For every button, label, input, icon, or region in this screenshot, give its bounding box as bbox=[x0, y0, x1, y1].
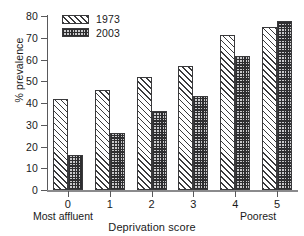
x-tick bbox=[152, 191, 153, 197]
y-tick bbox=[41, 190, 47, 191]
bar-1973-4 bbox=[220, 35, 235, 191]
bar-1973-5 bbox=[262, 27, 277, 190]
x-tick-label: 2 bbox=[132, 199, 172, 210]
x-tick bbox=[235, 191, 236, 197]
bar-1973-1 bbox=[95, 90, 110, 190]
x-axis-title: Deprivation score bbox=[0, 221, 304, 233]
y-tick-label: 70 bbox=[0, 33, 38, 44]
bar-1973-0 bbox=[53, 99, 68, 190]
x-axis-endpoint-right: Poorest bbox=[240, 211, 276, 222]
legend-swatch-1973 bbox=[62, 15, 89, 24]
bar-chart: % prevalence 01020304050607080 012345 19… bbox=[0, 0, 304, 236]
bar-2003-1 bbox=[110, 133, 125, 190]
x-tick bbox=[193, 191, 194, 197]
y-tick-label: 10 bbox=[0, 163, 38, 174]
x-tick-label: 1 bbox=[90, 199, 130, 210]
y-tick-label: 40 bbox=[0, 98, 38, 109]
legend-item-2003: 2003 bbox=[62, 28, 120, 39]
bars-layer bbox=[47, 16, 298, 190]
x-tick-label: 3 bbox=[173, 199, 213, 210]
x-tick-label: 5 bbox=[257, 199, 297, 210]
x-axis-line bbox=[47, 190, 298, 192]
bar-2003-4 bbox=[235, 56, 250, 190]
y-tick-label: 0 bbox=[0, 185, 38, 196]
y-tick-label: 20 bbox=[0, 141, 38, 152]
y-tick-label: 50 bbox=[0, 76, 38, 87]
bar-2003-2 bbox=[152, 111, 167, 190]
y-axis-title: % prevalence bbox=[13, 15, 25, 125]
y-tick-label: 30 bbox=[0, 120, 38, 131]
legend: 1973 2003 bbox=[62, 14, 120, 38]
x-tick bbox=[277, 191, 278, 197]
x-tick-label: 0 bbox=[48, 199, 88, 210]
x-tick bbox=[110, 191, 111, 197]
legend-swatch-2003 bbox=[62, 28, 89, 37]
x-tick bbox=[68, 191, 69, 197]
bar-2003-5 bbox=[277, 21, 292, 190]
bar-1973-3 bbox=[178, 66, 193, 190]
legend-label-1973: 1973 bbox=[96, 14, 120, 25]
bar-2003-3 bbox=[193, 96, 208, 190]
bar-1973-2 bbox=[137, 77, 152, 190]
y-tick-label: 80 bbox=[0, 11, 38, 22]
legend-label-2003: 2003 bbox=[96, 28, 120, 39]
legend-item-1973: 1973 bbox=[62, 14, 120, 25]
x-tick-label: 4 bbox=[215, 199, 255, 210]
bar-2003-0 bbox=[68, 155, 83, 190]
y-tick-label: 60 bbox=[0, 54, 38, 65]
x-axis-endpoint-left: Most affluent bbox=[33, 211, 93, 222]
